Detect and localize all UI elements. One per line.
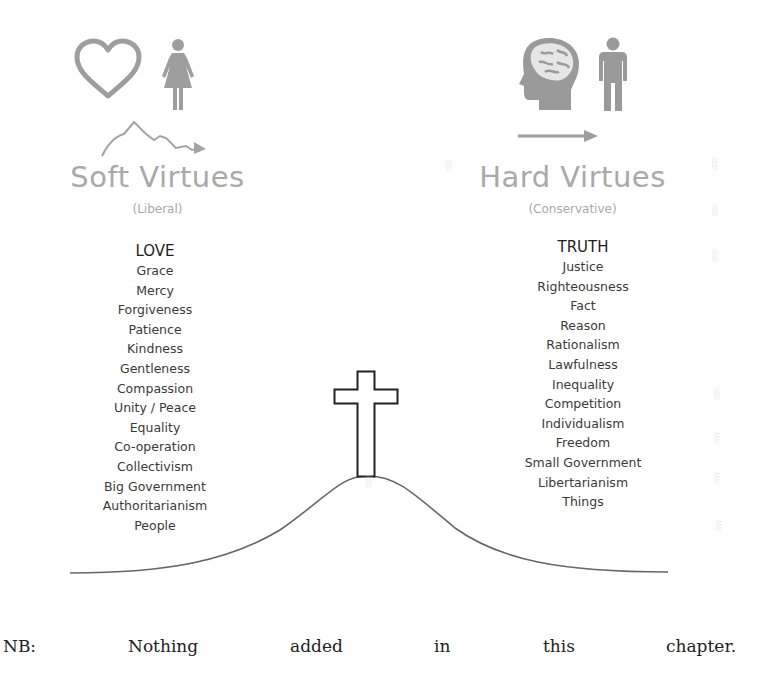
hill-curve (0, 0, 783, 600)
bleed-through-mark: ░ (366, 476, 372, 487)
footnote-word: Nothing (128, 636, 198, 656)
bleed-through-mark: ░ (446, 160, 452, 171)
cross-icon (333, 370, 399, 478)
footnote-word: chapter. (666, 636, 736, 656)
footnote-word: this (543, 636, 575, 656)
footnote-word: in (434, 636, 450, 656)
footnote-word: added (290, 636, 343, 656)
bleed-through-mark: ░ (712, 158, 718, 169)
bleed-through-mark: ░ (714, 388, 720, 399)
bleed-through-mark: ░ (714, 472, 720, 483)
footnote-word: NB: (3, 636, 36, 656)
bleed-through-mark: ░ (712, 205, 718, 216)
bleed-through-mark: ░ (714, 432, 720, 443)
bleed-through-mark: ░ (712, 250, 718, 261)
bleed-through-mark: ░ (716, 520, 722, 531)
